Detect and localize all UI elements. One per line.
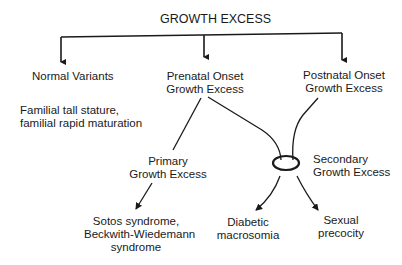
node-primary-growth-excess: Primary Growth Excess: [128, 155, 208, 181]
sexual-line1: Sexual: [310, 214, 372, 227]
node-normal-variants: Normal Variants: [32, 70, 114, 83]
prenatal-to-secondary-line: [208, 97, 281, 160]
prenatal-line1: Prenatal Onset: [163, 70, 247, 83]
diabetic-line2: macrosomia: [213, 229, 283, 242]
normal-examples-line2: familial rapid maturation: [20, 117, 142, 130]
ring-to-sexual-arrow: [297, 176, 318, 210]
primary-line2: Growth Excess: [128, 168, 208, 181]
secondary-line2: Growth Excess: [313, 166, 390, 179]
prenatal-line2: Growth Excess: [163, 83, 247, 96]
node-normal-examples: Familial tall stature, familial rapid ma…: [20, 104, 142, 130]
prenatal-to-primary-line: [173, 98, 201, 150]
secondary-line1: Secondary: [313, 153, 390, 166]
node-sotos-beckwith: Sotos syndrome, Beckwith-Wiedemann syndr…: [84, 215, 188, 254]
secondary-ring: [273, 156, 299, 170]
primary-to-sotos-arrow: [136, 183, 152, 209]
sotos-line2: Beckwith-Wiedemann: [84, 228, 188, 241]
diabetic-line1: Diabetic: [213, 216, 283, 229]
top-bracket: [61, 33, 342, 62]
node-sexual-precocity: Sexual precocity: [310, 214, 372, 240]
sexual-line2: precocity: [310, 227, 372, 240]
sotos-line3: syndrome: [84, 241, 188, 254]
sotos-line1: Sotos syndrome,: [84, 215, 188, 228]
node-postnatal-onset: Postnatal Onset Growth Excess: [302, 69, 386, 95]
diagram-title: GROWTH EXCESS: [160, 13, 271, 26]
node-diabetic-macrosomia: Diabetic macrosomia: [213, 216, 283, 242]
node-prenatal-onset: Prenatal Onset Growth Excess: [163, 70, 247, 96]
primary-line1: Primary: [128, 155, 208, 168]
node-secondary-growth-excess: Secondary Growth Excess: [313, 153, 390, 179]
postnatal-line1: Postnatal Onset: [302, 69, 386, 82]
postnatal-to-secondary-line: [293, 98, 318, 160]
normal-examples-line1: Familial tall stature,: [20, 104, 142, 117]
growth-excess-diagram: GROWTH EXCESS Normal Variants Familial t…: [0, 0, 402, 265]
postnatal-line2: Growth Excess: [302, 82, 386, 95]
ring-to-diabetic-arrow: [256, 176, 280, 210]
